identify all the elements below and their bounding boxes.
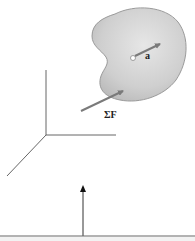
axis-diagonal: [7, 135, 46, 176]
bottom-band: [0, 237, 195, 241]
center-of-mass-icon: [131, 56, 136, 61]
coordinate-axes: [7, 70, 116, 176]
net-force-label: ΣF: [104, 109, 117, 120]
arrowhead-icon: [80, 185, 86, 192]
diagram-canvas: [0, 0, 195, 241]
acceleration-label: a: [145, 50, 150, 61]
net-force-vector: [81, 91, 123, 111]
